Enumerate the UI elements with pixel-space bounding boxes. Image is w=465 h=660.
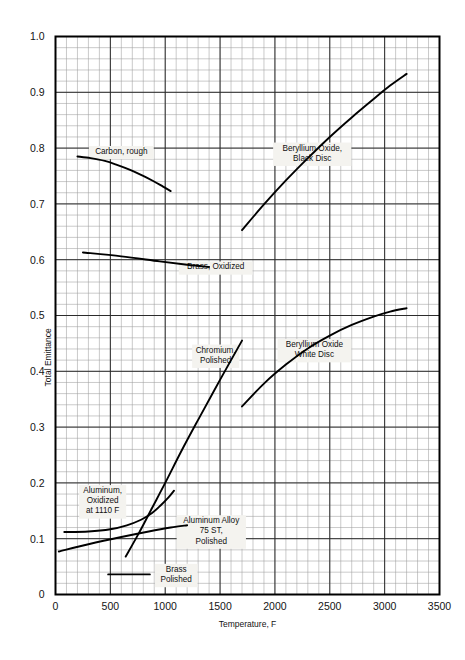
curve-label-text: Polished [160, 575, 192, 584]
y-tick-label: 0.2 [30, 477, 45, 489]
curve-label-text: Polished [196, 537, 228, 546]
x-axis-title: Temperature, F [219, 619, 277, 629]
curve-label-text: White Disc [295, 350, 334, 359]
y-tick-label: 0.4 [30, 365, 45, 377]
x-tick-label: 500 [102, 600, 120, 612]
curve-label-text: Chromium, [196, 346, 236, 355]
x-tick-label: 2000 [263, 600, 287, 612]
curve-label: Brass, Oxidized [179, 261, 253, 274]
curve-label: Aluminum Alloy75 ST,Polished [177, 515, 246, 549]
x-tick-label: 1000 [154, 600, 178, 612]
emittance-chart: 050010001500200025003000350000.10.20.30.… [0, 0, 465, 660]
y-tick-label: 0.7 [30, 198, 45, 210]
curve-label-text: Aluminum, [83, 486, 122, 495]
y-tick-label: 0.1 [30, 533, 45, 545]
y-axis-ticks: 00.10.20.30.40.50.60.70.80.91.0 [30, 30, 45, 600]
x-tick-label: 2500 [318, 600, 342, 612]
curve-label-text: 75 ST, [200, 526, 223, 535]
y-tick-label: 0 [39, 588, 45, 600]
curve-label-text: Polished [200, 356, 232, 365]
curve-label-text: Oxidized [87, 496, 119, 505]
curve-label-text: at 1110 F [86, 506, 119, 515]
x-axis-ticks: 0500100015002000250030003500 [53, 600, 452, 612]
curve-label-text: Beryllium Oxide, [282, 144, 342, 153]
curve-label-text: Brass, Oxidized [187, 262, 245, 271]
curve-label: Beryllium OxideWhite Disc [278, 339, 352, 362]
x-tick-label: 3000 [373, 600, 397, 612]
curve-label-text: Brass [166, 565, 187, 574]
y-tick-label: 0.5 [30, 309, 45, 321]
x-tick-label: 1500 [208, 600, 232, 612]
curve-label: BrassPolished [155, 564, 198, 587]
curve-label-text: Carbon, rough [95, 147, 148, 156]
x-tick-label: 0 [53, 600, 59, 612]
curve-label: Aluminum,Oxidizedat 1110 F [79, 485, 126, 519]
y-tick-label: 0.8 [30, 142, 45, 154]
y-tick-label: 0.9 [30, 86, 45, 98]
chart-canvas: 050010001500200025003000350000.10.20.30.… [0, 0, 465, 660]
y-axis-title: Total Emittance [44, 328, 54, 386]
curve-label-text: Aluminum Alloy [183, 516, 240, 525]
y-tick-label: 0.6 [30, 254, 45, 266]
y-tick-label: 0.3 [30, 421, 45, 433]
x-tick-label: 3500 [428, 600, 452, 612]
y-tick-label: 1.0 [30, 30, 45, 42]
curve-label: Carbon, rough [89, 146, 154, 159]
